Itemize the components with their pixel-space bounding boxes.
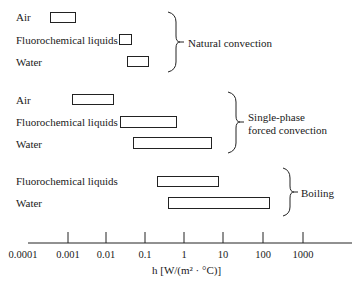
brace-single-phase [228,92,240,153]
x-tick-label: 1 [181,249,186,261]
x-tick-label: 0.1 [138,249,151,261]
group-label-boiling: Boiling [301,187,334,199]
x-tick-label: 0.01 [97,249,115,261]
chart-root: Air Fluorochemical liquids Water Air Flu… [0,0,357,289]
group-label-single-phase-1: Single-phase [248,111,305,123]
group-label-natural-convection: Natural convection [188,37,272,49]
group-label-single-phase-2: forced convection [248,124,327,136]
x-tick-label: 0.0001 [9,249,38,261]
x-tick-label: 100 [255,249,271,261]
x-tick-label: 10 [218,249,229,261]
x-tick-label: 1000 [293,249,314,261]
x-tick-label: 0.001 [56,249,80,261]
chart-lines [0,0,357,289]
brace-boiling [283,168,294,216]
brace-natural-convection [168,12,180,72]
x-axis-title: h [W/(m² · °C)] [152,264,221,277]
